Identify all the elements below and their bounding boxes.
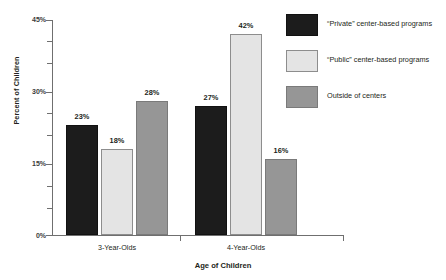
bar-value-3yo-public: 18% [101, 137, 133, 144]
y-tick-major-15 [46, 164, 52, 165]
legend-swatch-outside-icon [286, 86, 318, 108]
bar-value-4yo-private: 27% [195, 94, 227, 101]
legend-swatch-private-icon [286, 14, 318, 36]
bar-value-4yo-outside: 16% [265, 147, 297, 154]
y-tick-minor-6 [47, 208, 52, 209]
x-category-label-3-year-olds: 3-Year-Olds [66, 243, 168, 252]
y-tick-label-30: 30% [20, 88, 46, 95]
legend-item-outside: Outside of centers [286, 86, 446, 116]
y-tick-minor-4 [47, 135, 52, 136]
bar-3yo-public [101, 149, 133, 235]
bar-value-3yo-private: 23% [66, 113, 98, 120]
y-tick-label-45: 45% [20, 16, 46, 23]
bar-4yo-outside [265, 159, 297, 235]
legend-label-public: “Public” center-based programs [327, 56, 429, 64]
y-tick-minor-2 [47, 63, 52, 64]
y-axis-labels: 45% 30% 15% 0% [20, 0, 46, 280]
bar-chart: Percent of Children 45% 30% 15% 0% 23% 1… [0, 0, 446, 280]
bar-4yo-private [195, 106, 227, 235]
y-tick-minor-1 [47, 41, 52, 42]
x-category-label-4-year-olds: 4-Year-Olds [195, 243, 297, 252]
legend-item-public: “Public” center-based programs [286, 50, 446, 80]
x-axis-title: Age of Children [0, 261, 446, 270]
y-tick-label-15: 15% [20, 160, 46, 167]
bar-value-3yo-outside: 28% [136, 89, 168, 96]
x-axis-line [52, 235, 344, 236]
y-tick-major-45 [46, 20, 52, 21]
bar-3yo-outside [136, 101, 168, 235]
legend: “Private” center-based programs “Public”… [286, 14, 446, 122]
bar-value-4yo-public: 42% [230, 22, 262, 29]
y-tick-major-30 [46, 92, 52, 93]
y-tick-minor-3 [47, 113, 52, 114]
legend-item-private: “Private” center-based programs [286, 14, 446, 44]
y-axis-line [52, 20, 53, 235]
y-tick-major-0 [46, 235, 52, 236]
legend-label-private: “Private” center-based programs [327, 20, 432, 28]
y-tick-minor-5 [47, 186, 52, 187]
bar-4yo-public [230, 34, 262, 235]
legend-swatch-public-icon [286, 50, 318, 72]
legend-label-outside: Outside of centers [327, 92, 386, 100]
x-tick-end [343, 236, 344, 241]
bar-3yo-private [66, 125, 98, 235]
x-tick-group-separator [180, 236, 181, 241]
y-tick-label-0: 0% [20, 232, 46, 239]
